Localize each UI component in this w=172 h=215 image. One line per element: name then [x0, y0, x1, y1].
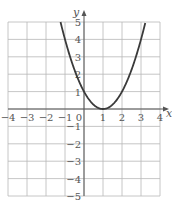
x-tick-label: 3 — [138, 112, 144, 123]
x-tick-label: 2 — [119, 112, 125, 123]
axes — [8, 10, 169, 196]
x-tick-label: −2 — [39, 112, 54, 123]
function-graph: −4−3−2−101234−5−4−3−2−112345 x y — [0, 0, 172, 215]
y-tick-label: −1 — [66, 121, 81, 132]
y-axis-label: y — [72, 6, 80, 19]
x-axis-label: x — [166, 107, 172, 120]
y-tick-label: −2 — [66, 139, 81, 150]
y-tick-label: 4 — [75, 34, 81, 45]
x-tick-label: 4 — [157, 112, 163, 123]
x-tick-label: 1 — [100, 112, 106, 123]
y-tick-label: 1 — [75, 87, 81, 98]
y-tick-label: −3 — [66, 156, 81, 167]
y-tick-label: 3 — [75, 52, 81, 63]
x-tick-label: −3 — [20, 112, 35, 123]
y-tick-label: −5 — [66, 191, 81, 202]
y-tick-label: −4 — [66, 174, 81, 185]
x-tick-label: −4 — [1, 112, 16, 123]
